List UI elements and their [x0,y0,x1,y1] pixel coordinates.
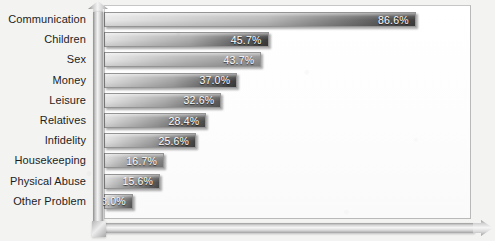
bar-value-label: 43.7% [224,55,255,66]
category-label-relatives: Relatives [0,115,86,126]
bars-layer: 86.6%45.7%43.7%37.0%32.6%28.4%25.6%16.7%… [104,0,495,241]
axis-arrow-right-icon [473,220,493,236]
category-axis-line [92,12,104,227]
bar-leisure: 32.6% [104,93,221,108]
bar-value-label: 37.0% [199,75,230,86]
category-label-physical-abuse: Physical Abuse [0,176,86,187]
category-label-money: Money [0,75,86,86]
category-label-other-problem: Other Problem [0,196,86,207]
bar-infidelity: 25.6% [104,133,196,148]
category-label-housekeeping: Housekeeping [0,155,86,166]
bar-value-label: 16.7% [126,156,157,167]
bar-children: 45.7% [104,32,269,47]
bar-value-label: 86.6% [378,14,409,25]
bar-value-label: 32.6% [184,95,215,106]
category-label-children: Children [0,34,86,45]
bar-fill [105,13,415,26]
bar-chart: CommunicationChildrenSexMoneyLeisureRela… [0,0,495,241]
bar-physical-abuse: 15.6% [104,174,160,189]
bar-communication: 86.6% [104,12,416,27]
bar-sex: 43.7% [104,52,261,67]
value-axis-line [95,221,493,237]
bar-relatives: 28.4% [104,113,206,128]
category-label-infidelity: Infidelity [0,135,86,146]
bar-value-label: 25.6% [158,135,189,146]
category-label-leisure: Leisure [0,95,86,106]
bar-other-problem: 8.0% [104,194,133,209]
bar-value-label: 28.4% [168,115,199,126]
bar-money: 37.0% [104,73,237,88]
category-label-sex: Sex [0,54,86,65]
category-label-communication: Communication [0,14,86,25]
bar-value-label: 45.7% [231,34,262,45]
bar-value-label: 15.6% [122,176,153,187]
axis-shaft [93,12,103,227]
bar-housekeeping: 16.7% [104,153,164,168]
category-axis-labels: CommunicationChildrenSexMoneyLeisureRela… [0,0,86,241]
axis-shaft [95,223,475,233]
axis-corner-joint [92,221,106,237]
bar-value-label: 8.0% [101,196,126,207]
